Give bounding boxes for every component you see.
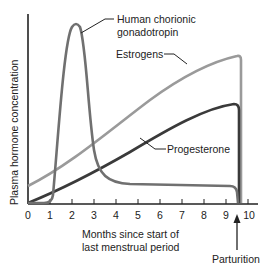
svg-text:3: 3 [91, 209, 97, 221]
estrogens-label: Estrogens [116, 48, 163, 60]
svg-text:2: 2 [69, 209, 75, 221]
hcg-leader [81, 19, 114, 33]
svg-text:1: 1 [47, 209, 53, 221]
svg-text:5: 5 [135, 209, 141, 221]
svg-text:4: 4 [113, 209, 119, 221]
x-tick-labels: 0 1 2 3 4 5 6 7 8 9 10 [25, 209, 255, 221]
estrogens-leader [164, 54, 187, 64]
y-axis-label: Plasma hormone concentration [8, 60, 20, 205]
parturition-arrowhead-icon [234, 214, 241, 223]
svg-text:10: 10 [243, 209, 255, 221]
hormone-chart: Plasma hormone concentration 0 1 2 3 4 5… [0, 0, 269, 272]
progesterone-label: Progesterone [167, 143, 230, 155]
svg-text:0: 0 [25, 209, 31, 221]
parturition-label: Parturition [212, 253, 260, 265]
svg-text:9: 9 [223, 209, 229, 221]
x-axis-label-line1: Months since start of [82, 228, 179, 240]
svg-text:8: 8 [201, 209, 207, 221]
hcg-label-line2: gonadotropin [117, 26, 178, 38]
hcg-label-line1: Human chorionic [117, 13, 196, 25]
estrogens-line [28, 56, 241, 203]
svg-text:7: 7 [179, 209, 185, 221]
x-axis-label-line2: last menstrual period [82, 241, 180, 253]
svg-text:6: 6 [157, 209, 163, 221]
